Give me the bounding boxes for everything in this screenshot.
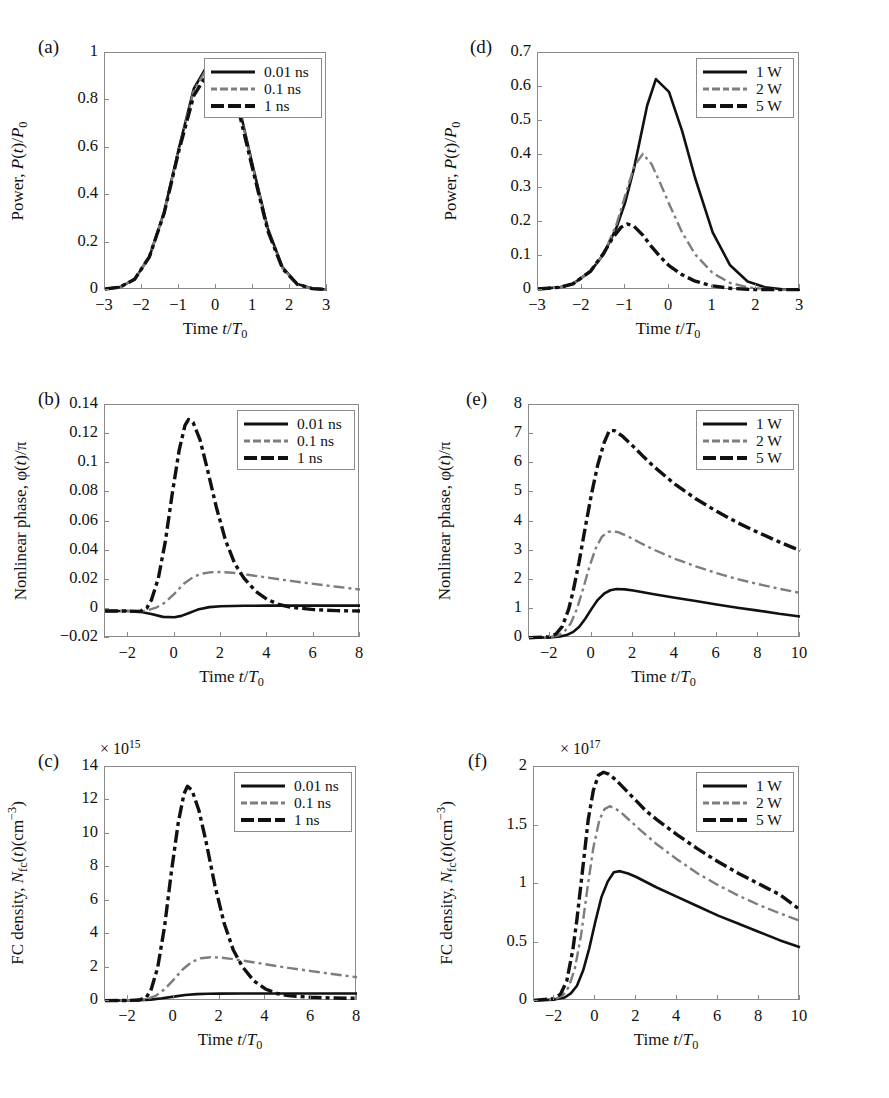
legend-label: 0.1 ns <box>294 794 331 811</box>
legend-label: 1 W <box>756 777 782 794</box>
y-tick-label: 0.2 <box>36 231 98 251</box>
x-tick-label: 0 <box>572 1006 616 1026</box>
y-tick-mark <box>104 99 109 100</box>
y-tick-label: 0.14 <box>36 393 98 413</box>
x-tick-label: 2 <box>610 643 654 663</box>
x-tick-mark <box>127 995 128 1000</box>
legend-item[interactable]: 0.1 ns <box>244 432 347 449</box>
x-tick-mark <box>537 284 538 289</box>
y-tick-label: 1 <box>465 872 527 892</box>
y-tick-mark <box>528 579 533 580</box>
y-tick-mark <box>533 766 538 767</box>
legend-d: 1 W2 W5 W <box>696 58 794 118</box>
x-tick-mark <box>264 995 265 1000</box>
y-tick-label: 2 <box>465 755 527 775</box>
y-tick-mark <box>537 221 542 222</box>
legend-item[interactable]: 1 W <box>703 777 786 794</box>
x-tick-label: −2 <box>105 643 149 663</box>
legend-label: 0.1 ns <box>264 80 301 97</box>
legend-item[interactable]: 5 W <box>703 449 786 466</box>
legend-item[interactable]: 0.1 ns <box>211 80 314 97</box>
y-axis-label-b: Nonlinear phase, φ(t)/π <box>11 441 31 600</box>
legend-e: 1 W2 W5 W <box>696 410 794 470</box>
legend-b: 0.01 ns0.1 ns1 ns <box>237 410 355 470</box>
legend-item[interactable]: 2 W <box>703 432 786 449</box>
y-tick-mark <box>537 255 542 256</box>
y-tick-mark <box>104 147 109 148</box>
y-tick-label: 0.04 <box>36 539 98 559</box>
legend-item[interactable]: 5 W <box>703 97 786 114</box>
y-tick-label: 6 <box>36 889 98 909</box>
x-tick-label: 1 <box>690 295 734 315</box>
x-tick-label: 10 <box>777 1006 821 1026</box>
legend-item[interactable]: 0.1 ns <box>241 794 344 811</box>
x-tick-label: 0 <box>152 643 196 663</box>
x-tick-mark <box>624 284 625 289</box>
legend-item[interactable]: 2 W <box>703 80 786 97</box>
x-tick-label: 10 <box>777 643 821 663</box>
y-tick-mark <box>104 550 109 551</box>
y-tick-label: 0.6 <box>469 75 531 95</box>
x-tick-label: 4 <box>654 1006 698 1026</box>
y-tick-mark <box>533 1000 538 1001</box>
y-tick-label: 0.08 <box>36 480 98 500</box>
y-tick-label: 2 <box>460 568 522 588</box>
y-tick-mark <box>104 462 109 463</box>
legend-label: 1 ns <box>294 811 319 828</box>
x-tick-label: 8 <box>337 643 381 663</box>
x-axis-label-d: Time t/T0 <box>578 319 758 342</box>
legend-item[interactable]: 1 W <box>703 63 786 80</box>
x-tick-label: 8 <box>735 643 779 663</box>
y-tick-label: 0 <box>460 626 522 646</box>
x-tick-label: 2 <box>197 1006 241 1026</box>
x-tick-mark <box>717 995 718 1000</box>
y-tick-mark <box>104 521 109 522</box>
legend-item[interactable]: 1 W <box>703 415 786 432</box>
x-tick-label: 0 <box>151 1006 195 1026</box>
legend-label: 5 W <box>756 97 782 114</box>
y-tick-mark <box>104 52 109 53</box>
x-tick-mark <box>219 995 220 1000</box>
x-tick-mark <box>326 284 327 289</box>
y-tick-label: 0.5 <box>465 931 527 951</box>
legend-label: 0.01 ns <box>297 415 342 432</box>
y-tick-mark <box>104 433 109 434</box>
y-tick-mark <box>537 86 542 87</box>
x-axis-label-b: Time t/T0 <box>142 667 322 690</box>
x-tick-mark <box>220 632 221 637</box>
legend-item[interactable]: 2 W <box>703 794 786 811</box>
legend-item[interactable]: 1 ns <box>211 97 314 114</box>
x-tick-label: −1 <box>602 295 646 315</box>
y-tick-mark <box>104 833 109 834</box>
legend-label: 5 W <box>756 811 782 828</box>
y-axis-label-f: FC density, Nfc(t)(cm−3) <box>434 801 460 965</box>
x-tick-mark <box>313 632 314 637</box>
y-tick-mark <box>104 404 109 405</box>
legend-item[interactable]: 5 W <box>703 811 786 828</box>
y-tick-label: 0.3 <box>469 176 531 196</box>
legend-item[interactable]: 0.01 ns <box>211 63 314 80</box>
x-tick-mark <box>356 995 357 1000</box>
y-tick-mark <box>528 433 533 434</box>
y-tick-mark <box>537 187 542 188</box>
legend-item[interactable]: 0.01 ns <box>244 415 347 432</box>
y-tick-label: 0 <box>465 989 527 1009</box>
y-tick-mark <box>537 120 542 121</box>
legend-item[interactable]: 1 ns <box>244 449 347 466</box>
y-tick-mark <box>104 608 109 609</box>
x-tick-mark <box>635 995 636 1000</box>
legend-c: 0.01 ns0.1 ns1 ns <box>234 772 352 832</box>
legend-label: 2 W <box>756 80 782 97</box>
legend-item[interactable]: 0.01 ns <box>241 777 344 794</box>
y-tick-label: 0.1 <box>36 451 98 471</box>
y-tick-mark <box>533 942 538 943</box>
legend-label: 0.1 ns <box>297 432 334 449</box>
x-axis-label-a: Time t/T0 <box>125 319 305 342</box>
y-tick-label: 0.4 <box>36 183 98 203</box>
y-tick-label: 0.6 <box>36 136 98 156</box>
x-tick-mark <box>173 995 174 1000</box>
x-tick-label: 6 <box>694 643 738 663</box>
legend-item[interactable]: 1 ns <box>241 811 344 828</box>
y-tick-mark <box>104 491 109 492</box>
y-tick-label: 12 <box>36 788 98 808</box>
